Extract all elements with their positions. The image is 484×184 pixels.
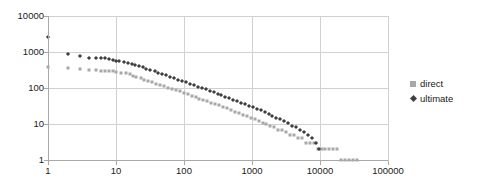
data-point-direct <box>289 133 292 136</box>
data-point-direct <box>174 89 177 92</box>
gridline-horizontal <box>48 124 388 125</box>
data-point-ultimate <box>93 56 97 60</box>
data-point-direct <box>285 130 288 133</box>
gridline-vertical <box>320 16 321 160</box>
data-point-direct <box>324 148 327 151</box>
data-point-ultimate <box>255 107 259 111</box>
data-point-ultimate <box>160 72 164 76</box>
plot-area <box>48 16 388 160</box>
x-tick-label: 10000 <box>307 165 333 176</box>
data-point-ultimate <box>130 62 134 66</box>
data-point-direct <box>312 141 315 144</box>
gridline-horizontal <box>48 52 388 53</box>
data-point-direct <box>281 128 284 131</box>
y-tick-label: 100 <box>28 83 44 93</box>
data-point-ultimate <box>223 95 227 99</box>
data-point-direct <box>237 112 240 115</box>
data-point-ultimate <box>126 61 130 65</box>
data-point-direct <box>214 102 217 105</box>
x-tick-label: 1 <box>45 165 50 176</box>
data-point-ultimate <box>231 98 235 102</box>
data-point-direct <box>186 93 189 96</box>
data-point-ultimate <box>188 82 192 86</box>
data-point-ultimate <box>207 89 211 93</box>
data-point-direct <box>198 97 201 100</box>
data-point-ultimate <box>153 69 157 73</box>
y-tick-mark <box>44 16 48 17</box>
data-point-ultimate <box>239 101 243 105</box>
gridline-horizontal <box>48 88 388 89</box>
x-tick-label: 100000 <box>372 165 404 176</box>
data-point-direct <box>218 104 221 107</box>
data-point-ultimate <box>78 54 82 58</box>
data-point-direct <box>316 148 319 151</box>
data-point-ultimate <box>274 116 278 120</box>
data-point-direct <box>253 117 256 120</box>
data-point-ultimate <box>313 141 317 145</box>
data-point-direct <box>273 126 276 129</box>
data-point-ultimate <box>107 57 111 61</box>
data-point-direct <box>308 141 311 144</box>
data-point-ultimate <box>192 83 196 87</box>
legend-label-ultimate: ultimate <box>420 93 453 104</box>
data-point-ultimate <box>99 56 103 60</box>
data-point-direct <box>135 75 138 78</box>
legend-label-direct: direct <box>420 78 443 89</box>
data-point-ultimate <box>227 96 231 100</box>
data-point-ultimate <box>117 59 121 63</box>
data-point-ultimate <box>172 76 176 80</box>
y-axis-tick-labels: 110100100010000 <box>0 0 44 184</box>
data-point-ultimate <box>168 75 172 79</box>
data-point-direct <box>147 79 150 82</box>
data-point-ultimate <box>133 63 137 67</box>
data-point-direct <box>139 77 142 80</box>
y-tick-label: 1000 <box>23 47 44 57</box>
plot-right-border <box>388 16 389 161</box>
data-point-direct <box>222 105 225 108</box>
x-tick-label: 1000 <box>241 165 262 176</box>
legend-item-ultimate[interactable]: ultimate <box>410 92 480 105</box>
data-point-direct <box>328 148 331 151</box>
chart-legend: direct ultimate <box>410 77 480 107</box>
data-point-direct <box>332 148 335 151</box>
data-point-direct <box>94 69 97 72</box>
data-point-direct <box>296 137 299 140</box>
data-point-direct <box>233 110 236 113</box>
data-point-direct <box>108 70 111 73</box>
data-point-direct <box>300 137 303 140</box>
data-point-ultimate <box>247 104 251 108</box>
data-point-ultimate <box>294 125 298 129</box>
data-point-direct <box>111 70 114 73</box>
data-point-direct <box>79 68 82 71</box>
legend-square-marker-icon <box>410 81 416 87</box>
data-point-ultimate <box>103 56 107 60</box>
x-axis-line <box>48 160 389 161</box>
data-point-ultimate <box>262 110 266 114</box>
data-point-direct <box>257 120 260 123</box>
legend-diamond-marker-icon <box>410 95 417 102</box>
data-point-ultimate <box>306 133 310 137</box>
x-tick-mark <box>184 161 185 165</box>
data-point-direct <box>229 108 232 111</box>
data-point-ultimate <box>122 60 126 64</box>
data-point-direct <box>99 69 102 72</box>
x-axis-tick-labels: 110100100010000100000 <box>0 165 484 179</box>
data-point-ultimate <box>156 70 160 74</box>
data-point-ultimate <box>243 102 247 106</box>
data-point-ultimate <box>164 73 168 77</box>
y-axis-line <box>48 16 49 161</box>
data-point-ultimate <box>266 112 270 116</box>
data-point-ultimate <box>298 127 302 131</box>
data-point-direct <box>178 90 181 93</box>
data-point-direct <box>277 128 280 131</box>
data-point-ultimate <box>282 119 286 123</box>
data-point-ultimate <box>302 130 306 134</box>
legend-item-direct[interactable]: direct <box>410 77 480 90</box>
x-tick-label: 10 <box>111 165 122 176</box>
data-point-direct <box>151 81 154 84</box>
data-point-ultimate <box>211 90 215 94</box>
y-tick-label: 10000 <box>18 11 44 21</box>
chart-container: 110100100010000 110100100010000100000 di… <box>0 0 484 184</box>
data-point-direct <box>120 71 123 74</box>
gridline-vertical <box>252 16 253 160</box>
